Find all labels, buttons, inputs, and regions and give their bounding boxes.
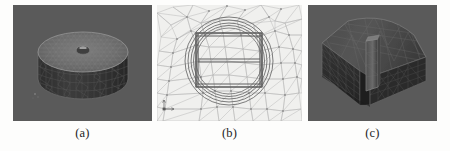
panel-b-render <box>157 5 302 121</box>
panel-c-caption: (c) <box>308 126 437 141</box>
background-speck <box>34 93 36 95</box>
panel-c-wedge-mesh <box>308 5 437 121</box>
panel-a-render <box>13 5 152 121</box>
panel-a-caption: (a) <box>13 126 152 141</box>
panel-c-render <box>308 5 437 121</box>
background-speck <box>37 96 38 97</box>
panel-b-caption: (b) <box>157 126 302 141</box>
background-speck <box>32 97 33 98</box>
panel-a-cylinder-mesh <box>13 5 152 121</box>
raised-rib-feature <box>366 35 380 91</box>
panel-b-cross-section-mesh <box>157 5 302 121</box>
cylinder-center-bore <box>77 46 90 54</box>
figure-panel-row: (a) <box>0 0 450 151</box>
